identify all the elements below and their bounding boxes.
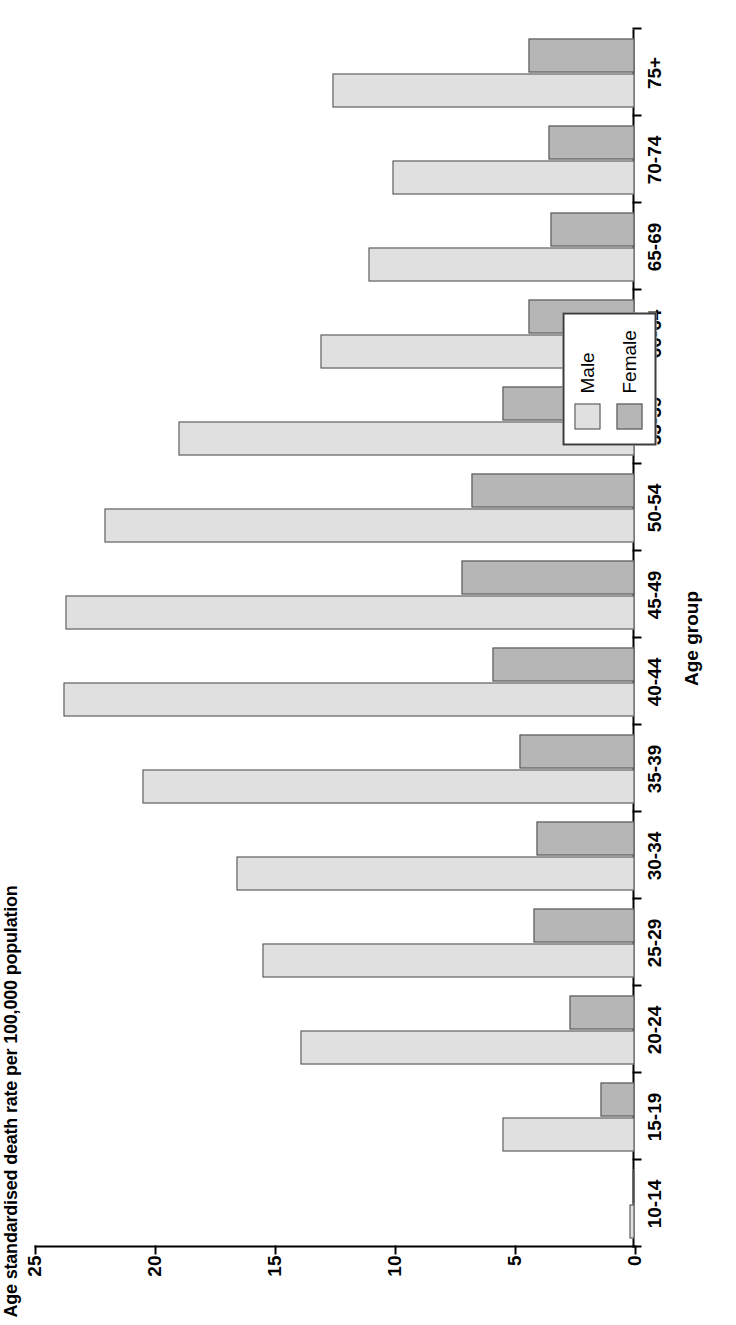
category-axis-title: Age group: [680, 29, 702, 1247]
bar-female-15-19: [600, 1082, 634, 1117]
category-axis-tick: [632, 462, 641, 464]
chart-canvas: Age standardised death rate per 100,000 …: [0, 0, 736, 1325]
bar-female-30-34: [536, 821, 634, 856]
bar-female-10-14: [632, 1169, 634, 1204]
category-axis-tick-label: 50-54: [643, 483, 665, 532]
bar-male-65-69: [368, 247, 634, 282]
bar-male-40-44: [63, 682, 634, 717]
category-axis-tick: [632, 897, 641, 899]
value-axis-tick: [394, 1245, 396, 1254]
value-axis-tick-label: 15: [263, 1255, 285, 1276]
bar-female-75+: [528, 38, 634, 73]
value-axis-tick-label: 5: [503, 1255, 525, 1266]
category-axis-tick-label: 75+: [643, 56, 665, 88]
value-axis-tick-label: 0: [623, 1255, 645, 1266]
bar-male-20-24: [300, 1030, 634, 1065]
bar-female-35-39: [519, 734, 634, 769]
category-axis-tick: [632, 984, 641, 986]
legend-item-male: Male: [574, 330, 600, 429]
category-axis-tick: [632, 27, 641, 29]
bar-male-50-54: [104, 508, 634, 543]
value-axis-tick: [154, 1245, 156, 1254]
value-axis-title: Age standardised death rate per 100,000 …: [0, 885, 21, 1317]
bar-female-20-24: [569, 995, 634, 1030]
bar-male-45-49: [65, 595, 634, 630]
bar-male-75+: [332, 73, 634, 108]
category-axis-tick-label: 15-19: [643, 1092, 665, 1141]
value-axis-tick: [514, 1245, 516, 1254]
value-axis-tick-label: 10: [383, 1255, 405, 1276]
bar-female-65-69: [550, 212, 634, 247]
category-axis-tick: [632, 288, 641, 290]
value-axis-tick-label: 25: [23, 1255, 45, 1276]
category-axis-tick: [632, 1071, 641, 1073]
category-axis-tick-label: 10-14: [643, 1179, 665, 1228]
bar-female-40-44: [492, 647, 634, 682]
rotated-figure: Age standardised death rate per 100,000 …: [0, 0, 736, 1325]
chart-legend: MaleFemale: [562, 312, 656, 445]
category-axis-tick-label: 45-49: [643, 570, 665, 619]
category-axis-tick: [632, 1158, 641, 1160]
category-axis-tick: [632, 1245, 641, 1247]
bar-female-70-74: [548, 125, 634, 160]
category-axis-tick: [632, 201, 641, 203]
bar-female-50-54: [471, 473, 634, 508]
category-axis-tick: [632, 114, 641, 116]
category-axis-tick-label: 65-69: [643, 222, 665, 271]
bar-female-45-49: [461, 560, 634, 595]
category-axis-tick: [632, 810, 641, 812]
value-axis-tick: [34, 1245, 36, 1254]
category-axis-tick-label: 40-44: [643, 657, 665, 706]
bar-male-10-14: [629, 1204, 634, 1239]
plot-area: 0510152025 10-1415-1920-2425-2930-3435-3…: [34, 29, 634, 1247]
category-axis-tick-label: 20-24: [643, 1005, 665, 1054]
value-axis-tick: [274, 1245, 276, 1254]
legend-label: Female: [618, 330, 640, 393]
legend-item-female: Female: [616, 330, 642, 429]
category-axis-tick-label: 30-34: [643, 831, 665, 880]
bar-male-25-29: [262, 943, 634, 978]
bar-male-15-19: [502, 1117, 634, 1152]
bar-male-35-39: [142, 769, 634, 804]
value-axis-tick-label: 20: [143, 1255, 165, 1276]
category-axis-tick-label: 70-74: [643, 135, 665, 184]
bar-male-70-74: [392, 160, 634, 195]
bar-male-30-34: [236, 856, 634, 891]
legend-swatch-female: [616, 403, 642, 429]
legend-label: Male: [576, 352, 598, 393]
category-axis-tick-label: 25-29: [643, 918, 665, 967]
category-axis-tick: [632, 549, 641, 551]
category-axis-tick: [632, 636, 641, 638]
bar-female-25-29: [533, 908, 634, 943]
category-axis-tick-label: 35-39: [643, 744, 665, 793]
legend-swatch-male: [574, 403, 600, 429]
category-axis-tick: [632, 723, 641, 725]
value-axis: 0510152025: [34, 1245, 634, 1247]
